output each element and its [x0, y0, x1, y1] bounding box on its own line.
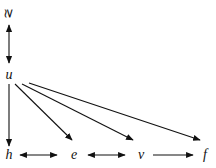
edge-u-e [15, 84, 72, 140]
node-e: e [71, 148, 77, 162]
diagram-edges [0, 0, 216, 168]
node-v: v [138, 148, 144, 162]
node-f: f [203, 148, 207, 162]
node-top: ≳ [3, 8, 16, 19]
node-h: h [6, 148, 13, 162]
node-u: u [6, 68, 13, 82]
edge-u-f [29, 83, 200, 140]
